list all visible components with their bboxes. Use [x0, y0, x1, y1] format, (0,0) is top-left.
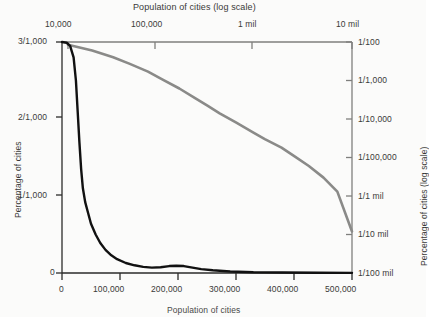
- right-tick-marks: [346, 42, 352, 273]
- top-tick-marks: [68, 42, 352, 49]
- series-log-curve: [68, 45, 352, 232]
- bottom-tick-marks: [62, 273, 352, 280]
- series-linear-curve: [62, 42, 352, 273]
- left-tick-marks: [56, 42, 62, 273]
